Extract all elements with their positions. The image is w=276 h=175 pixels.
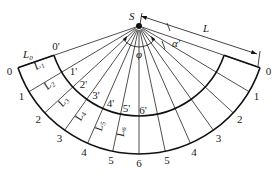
alpha-tick-top — [167, 23, 170, 31]
apex-label: S — [129, 10, 135, 22]
outer-point-label: 2 — [36, 113, 42, 125]
outer-point-label: 1 — [19, 90, 25, 102]
l-dimension-label: L — [202, 22, 209, 34]
inner-point-label: 2' — [80, 78, 88, 90]
outer-point-label: 1 — [254, 90, 260, 102]
inner-point-label: 6' — [139, 104, 147, 116]
l-ext-right — [258, 51, 260, 66]
segment-label: L6 — [114, 127, 128, 138]
l-arrow-right — [251, 50, 257, 54]
outer-point-label: 5 — [108, 154, 114, 166]
outer-point-label: 2 — [237, 113, 243, 125]
segment-label: L0 — [22, 48, 33, 62]
inner-point-label: 5' — [123, 102, 131, 114]
l-arrow-left — [141, 16, 147, 20]
fan-line — [142, 28, 248, 92]
outer-point-label: 4 — [81, 146, 87, 158]
segment-label: L4 — [72, 108, 89, 124]
outer-point-label: 5 — [164, 154, 170, 166]
outer-point-label: 0 — [266, 65, 272, 77]
right-end-segment — [224, 55, 260, 67]
segment-label: L2 — [40, 76, 58, 94]
inner-point-label: 3' — [92, 89, 100, 101]
outer-point-label: 3 — [216, 132, 222, 144]
phi-label: φ — [136, 48, 142, 60]
outer-point-label: 4 — [191, 146, 197, 158]
fan-line — [141, 30, 191, 144]
inner-point-label: 1' — [70, 65, 78, 77]
inner-point-label: 4' — [107, 97, 115, 109]
fan-line — [140, 30, 165, 151]
segment-label: L5 — [92, 119, 108, 133]
apex-hub — [136, 23, 142, 29]
l-dimension-line — [141, 16, 257, 54]
outer-point-label: 3 — [57, 132, 63, 144]
alpha-label: α' — [172, 37, 181, 49]
inner-point-label: 0' — [52, 40, 60, 52]
outer-point-label: 0 — [7, 65, 13, 77]
fan-development-diagram: S φ α' L 01234565432100'1'2'3'4'5'6'L0L1… — [0, 0, 276, 175]
l-ext-left — [140, 13, 142, 24]
outer-point-label: 6 — [136, 157, 142, 169]
